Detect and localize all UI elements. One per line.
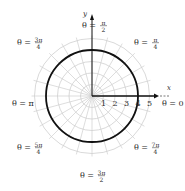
angle-label-denominator: 4	[37, 148, 41, 155]
angle-label-denominator: 2	[100, 176, 104, 183]
angle-label-numerator: 5π	[35, 141, 43, 148]
x-axis-label: x	[167, 84, 171, 92]
angle-label-numerator: π	[154, 36, 158, 43]
angle-label-prefix: θ =	[82, 21, 96, 30]
angle-label-pi: θ = π	[12, 99, 34, 108]
x-axis-arrowhead	[154, 94, 159, 99]
polar-plot: 12345 θ = 0θ = π4θ = π2θ = 3π4θ = πθ = 5…	[0, 0, 185, 191]
angle-label-numerator: π	[102, 19, 106, 26]
angle-label-denominator: 4	[154, 148, 158, 155]
angle-label-prefix: θ =	[80, 171, 94, 180]
y-axis-label: y	[82, 10, 88, 18]
r-tick-label-2: 2	[113, 99, 118, 108]
angle-label-denominator: 2	[102, 26, 106, 33]
angle-label-prefix: θ =	[134, 143, 148, 152]
angle-label-prefix: θ =	[134, 38, 148, 47]
angle-label-0: θ = 0	[162, 99, 184, 108]
angle-label-numerator: 3π	[35, 36, 43, 43]
r-tick-label-5: 5	[147, 99, 152, 108]
angle-label-pi_2: θ = π2	[82, 19, 107, 33]
angle-label-numerator: 7π	[152, 141, 160, 148]
angle-label-pi_4: θ = π4	[134, 36, 159, 50]
angle-label-denominator: 4	[37, 43, 41, 50]
r-tick-label-4: 4	[136, 99, 141, 108]
angle-label-7pi_4: θ = 7π4	[134, 141, 159, 155]
r-tick-label-3: 3	[124, 99, 129, 108]
angle-label-5pi_4: θ = 5π4	[17, 141, 42, 155]
angle-label-prefix: θ = 0	[162, 99, 184, 108]
angle-label-3pi_4: θ = 3π4	[17, 36, 42, 50]
angle-label-3pi_2: θ = 3π2	[80, 169, 105, 183]
r-tick-label-1: 1	[101, 99, 106, 108]
angle-label-prefix: θ = π	[12, 99, 34, 108]
angle-label-prefix: θ =	[17, 38, 31, 47]
y-axis-arrowhead	[90, 14, 94, 20]
angle-labels: θ = 0θ = π4θ = π2θ = 3π4θ = πθ = 5π4θ = …	[12, 19, 184, 183]
angle-label-numerator: 3π	[98, 169, 106, 176]
angle-label-denominator: 4	[154, 43, 158, 50]
angle-label-prefix: θ =	[17, 143, 31, 152]
